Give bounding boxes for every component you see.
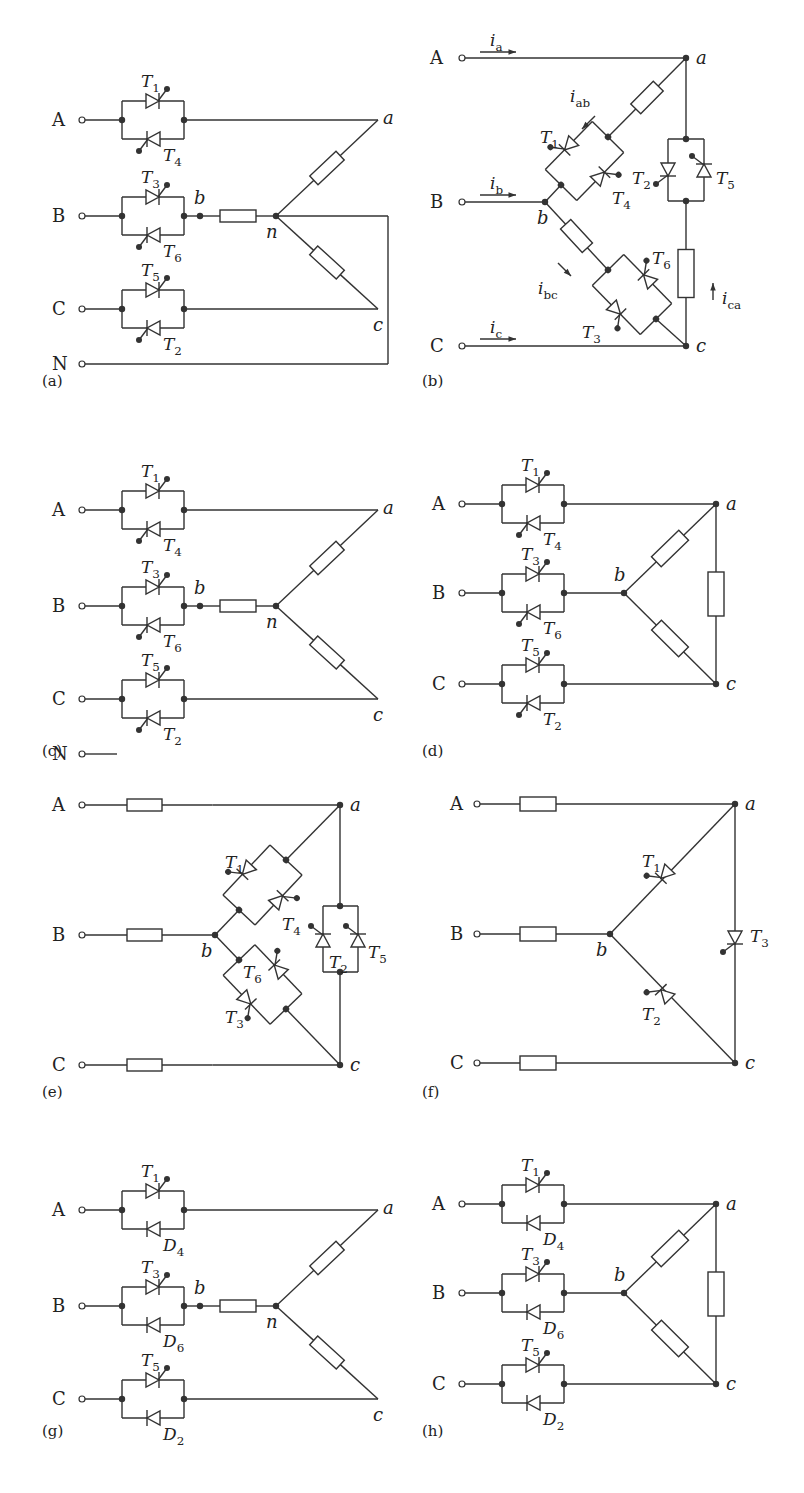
panel-g: AT1D4BT3D6CT5D2bnac bbox=[40, 1120, 410, 1469]
resistor-icon bbox=[540, 197, 613, 275]
terminal-label-A: A bbox=[431, 1193, 446, 1214]
resistor-icon bbox=[272, 212, 382, 314]
node-label-a: a bbox=[745, 793, 756, 814]
terminal-label-C: C bbox=[52, 1054, 66, 1075]
resistor-icon bbox=[272, 602, 382, 704]
device-label-T2: T2 bbox=[543, 709, 562, 733]
terminal-label-A: A bbox=[51, 794, 66, 815]
device-label-T6: T6 bbox=[543, 618, 562, 642]
terminal-label-B: B bbox=[430, 191, 443, 212]
arrow-icon bbox=[508, 49, 516, 54]
device-label-T1: T1 bbox=[141, 461, 160, 485]
node-label-n: n bbox=[266, 221, 278, 242]
device-label-T5: T5 bbox=[141, 1350, 160, 1374]
node-label-a: a bbox=[726, 493, 737, 514]
resistor-icon bbox=[272, 1302, 382, 1404]
arrow-icon bbox=[710, 283, 715, 291]
thyristor-icon bbox=[261, 947, 294, 980]
circuit-diagram-c: AT1T4BT3T6CT5T2bnacN bbox=[40, 420, 410, 765]
caption-c: (c) bbox=[42, 742, 62, 760]
panel-h: AT1D4BT3D6CT5D2abc bbox=[420, 1120, 790, 1469]
diode-icon bbox=[527, 1215, 540, 1231]
node-label-a: a bbox=[696, 47, 707, 68]
thyristor-icon bbox=[590, 159, 623, 192]
arrow-icon bbox=[508, 336, 516, 341]
node-label-a: a bbox=[383, 107, 394, 128]
thyristor-icon bbox=[136, 131, 160, 154]
device-label-T3: T3 bbox=[141, 557, 160, 581]
node-label-b: b bbox=[194, 1277, 206, 1298]
device-label-D2: D2 bbox=[162, 1424, 184, 1448]
node-label-c: c bbox=[373, 314, 383, 335]
thyristor-icon bbox=[516, 604, 540, 627]
terminal-label-C: C bbox=[432, 1373, 446, 1394]
resistor-icon bbox=[603, 53, 691, 142]
resistor-icon bbox=[708, 1204, 724, 1384]
diode-icon bbox=[527, 1395, 540, 1411]
figure-canvas: AT1T4BT3T6CT5T2bnacN ABCabcT1T4T6T3T2T5i… bbox=[0, 0, 804, 1493]
resistor-icon bbox=[619, 1288, 721, 1389]
circuit-diagram-a: AT1T4BT3T6CT5T2bnacN bbox=[40, 30, 410, 375]
device-label-T3: T3 bbox=[582, 322, 601, 346]
diode-icon bbox=[147, 1410, 160, 1426]
terminal-label-A: A bbox=[431, 493, 446, 514]
device-label-T5: T5 bbox=[716, 168, 735, 192]
node-label-b: b bbox=[614, 1264, 626, 1285]
device-label-D6: D6 bbox=[162, 1331, 184, 1355]
resistor-icon bbox=[200, 600, 276, 612]
terminal-label-C: C bbox=[450, 1052, 464, 1073]
resistor-icon bbox=[272, 116, 382, 221]
resistor-icon bbox=[200, 210, 276, 222]
circuit-diagram-e: ABCabcT1T4T6T3T2T5 bbox=[40, 790, 410, 1135]
device-label-T3: T3 bbox=[521, 1244, 540, 1268]
panel-f: ABCabcT1T2T3 bbox=[420, 790, 790, 1139]
current-label-ica: ica bbox=[722, 288, 741, 312]
thyristor-icon bbox=[343, 923, 366, 947]
thyristor-icon bbox=[136, 320, 160, 343]
panel-e: ABCabcT1T4T6T3T2T5 bbox=[40, 790, 410, 1139]
panel-a: AT1T4BT3T6CT5T2bnacN bbox=[40, 30, 410, 379]
thyristor-icon bbox=[136, 521, 160, 544]
circuit-diagram-b: ABCabcT1T4T6T3T2T5iaibiciabibcica bbox=[420, 30, 790, 375]
device-label-T6: T6 bbox=[243, 962, 262, 986]
node-label-c: c bbox=[350, 1054, 360, 1075]
circuit-diagram-h: AT1D4BT3D6CT5D2abc bbox=[420, 1120, 790, 1465]
caption-d: (d) bbox=[422, 742, 443, 760]
device-label-T6: T6 bbox=[652, 248, 671, 272]
device-label-T1: T1 bbox=[642, 851, 661, 875]
diode-icon bbox=[147, 1221, 160, 1237]
terminal-label-B: B bbox=[432, 582, 445, 603]
device-label-D2: D2 bbox=[542, 1409, 564, 1433]
current-label-ib: ib bbox=[490, 173, 503, 197]
device-label-T4: T4 bbox=[282, 914, 301, 938]
caption-b: (b) bbox=[422, 372, 443, 390]
node-label-c: c bbox=[726, 673, 736, 694]
terminal-label-B: B bbox=[52, 205, 65, 226]
terminal-label-A: A bbox=[51, 499, 66, 520]
node-label-b: b bbox=[614, 564, 626, 585]
device-label-T4: T4 bbox=[163, 145, 182, 169]
resistor-icon bbox=[520, 797, 556, 811]
device-label-T5: T5 bbox=[368, 942, 387, 966]
device-label-T6: T6 bbox=[163, 241, 182, 265]
caption-e: (e) bbox=[42, 1083, 63, 1101]
node-label-b: b bbox=[596, 939, 608, 960]
caption-g: (g) bbox=[42, 1422, 63, 1440]
node-label-a: a bbox=[383, 497, 394, 518]
thyristor-icon bbox=[268, 882, 301, 915]
device-label-T3: T3 bbox=[141, 1257, 160, 1281]
terminal-label-A: A bbox=[51, 109, 66, 130]
caption-a: (a) bbox=[42, 372, 63, 390]
device-label-T2: T2 bbox=[163, 334, 182, 358]
terminal-label-A: A bbox=[51, 1199, 66, 1220]
diode-icon bbox=[527, 1304, 540, 1320]
thyristor-icon bbox=[720, 931, 743, 955]
thyristor-icon bbox=[689, 153, 712, 177]
arrow-icon bbox=[508, 192, 516, 197]
node-label-c: c bbox=[726, 1373, 736, 1394]
resistor-icon bbox=[520, 1056, 556, 1070]
current-label-ia: ia bbox=[490, 30, 503, 54]
node-label-c: c bbox=[745, 1052, 755, 1073]
node-label-a: a bbox=[383, 1197, 394, 1218]
device-label-T3: T3 bbox=[521, 544, 540, 568]
